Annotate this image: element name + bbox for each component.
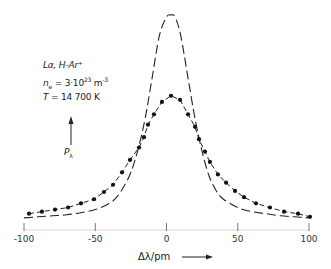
x-tick-label: 100 (300, 234, 317, 244)
data-point (27, 212, 31, 216)
y-axis-arrow (69, 116, 74, 145)
ne-value: = 3·10 (52, 78, 84, 88)
x-tick-label: 0 (164, 234, 170, 244)
data-point (254, 201, 258, 205)
data-point (160, 100, 164, 104)
x-tick-label: -50 (88, 234, 103, 244)
annotation-density: ne = 3·1023 m-3 (43, 76, 108, 90)
data-point (296, 212, 300, 216)
data-point (282, 210, 286, 214)
data-point (128, 158, 132, 162)
data-point (178, 98, 182, 102)
x-tick-label: 50 (232, 234, 244, 244)
data-point (186, 112, 190, 116)
line-chart: -100-50050100 Δλ/pm (0, 0, 331, 269)
x-axis-arrow (182, 255, 213, 260)
data-point (224, 181, 228, 185)
data-point (152, 112, 156, 116)
data-point (203, 150, 207, 154)
data-point (102, 190, 106, 194)
annotation-line: Lα, H-Ar⁺ (43, 60, 83, 70)
data-point (193, 125, 197, 129)
y-label-sub: λ (69, 152, 72, 159)
data-point (216, 172, 220, 176)
line-name: Lα, H-Ar⁺ (43, 60, 83, 70)
data-point (111, 183, 115, 187)
data-point (66, 205, 70, 209)
data-point (40, 210, 44, 214)
x-axis-label: Δλ/pm (138, 251, 170, 262)
ne-unit-exponent: -3 (102, 76, 108, 83)
data-point (146, 123, 150, 127)
series-calculated-line (24, 15, 309, 218)
data-point (268, 205, 272, 209)
data-point (208, 160, 212, 164)
ne-unit: m (91, 78, 102, 88)
data-point (120, 170, 124, 174)
data-point (79, 201, 83, 205)
data-point (137, 145, 141, 149)
data-point (308, 215, 312, 219)
data-point (169, 94, 173, 98)
data-point (142, 135, 146, 139)
y-axis-label: Pλ (64, 147, 73, 159)
temp-value: = 14 700 K (48, 92, 99, 102)
annotation-temperature: T = 14 700 K (43, 92, 100, 102)
x-tick-label: -100 (14, 234, 35, 244)
data-point (197, 137, 201, 141)
data-point (92, 197, 96, 201)
data-point (242, 195, 246, 199)
data-point (53, 207, 57, 211)
data-point (233, 189, 237, 193)
